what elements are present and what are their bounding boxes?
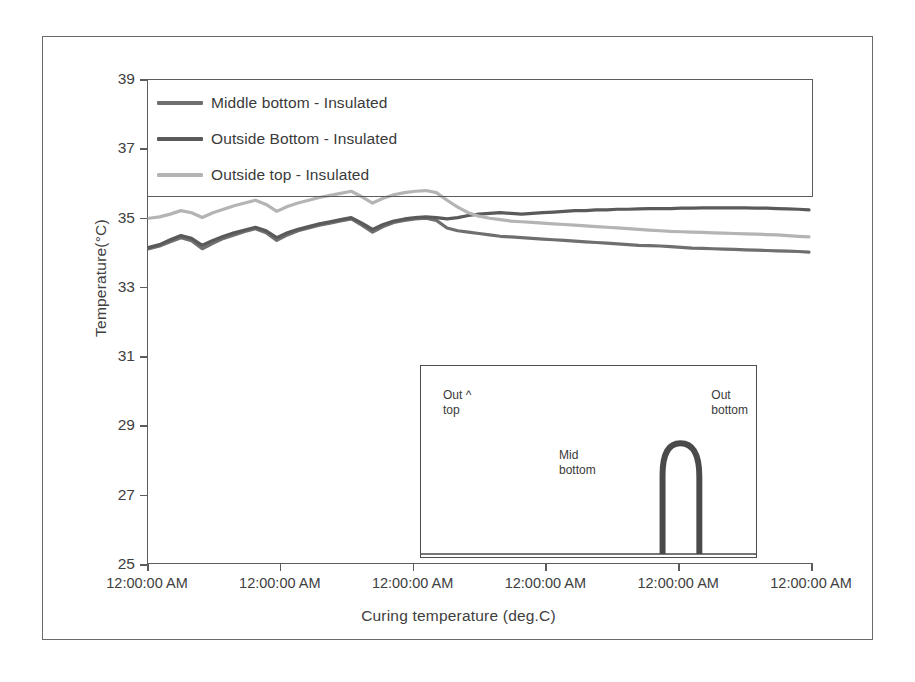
x-tick-mark (147, 564, 149, 571)
y-tick-mark (140, 356, 147, 358)
series-line (149, 218, 809, 252)
x-tick-mark (545, 564, 547, 571)
x-tick-label: 12:00:00 AM (770, 575, 851, 591)
y-tick-mark (140, 148, 147, 150)
inset-label-out-top: Out ^ top (443, 388, 471, 418)
legend-label: Outside top - Insulated (211, 166, 369, 184)
y-tick-mark (140, 79, 147, 81)
legend-label: Outside Bottom - Insulated (211, 130, 397, 148)
x-tick-label: 12:00:00 AM (505, 575, 586, 591)
legend-item[interactable]: Outside Bottom - Insulated (157, 130, 397, 148)
x-axis-title: Curing temperature (deg.C) (43, 607, 874, 625)
legend-color-swatch (157, 137, 203, 141)
x-tick-label: 12:00:00 AM (239, 575, 320, 591)
y-tick-mark (140, 218, 147, 220)
x-tick-label: 12:00:00 AM (637, 575, 718, 591)
figure-border: Temperature(°C) Curing temperature (deg.… (42, 36, 873, 640)
y-tick-label: 25 (89, 555, 135, 573)
x-tick-mark (678, 564, 680, 571)
legend-label: Middle bottom - Insulated (211, 94, 388, 112)
y-tick-mark (140, 287, 147, 289)
x-tick-mark (280, 564, 282, 571)
legend-item[interactable]: Middle bottom - Insulated (157, 94, 388, 112)
y-tick-label: 35 (89, 209, 135, 227)
y-tick-mark (140, 495, 147, 497)
x-tick-label: 12:00:00 AM (106, 575, 187, 591)
y-tick-label: 37 (89, 139, 135, 157)
x-tick-mark (413, 564, 415, 571)
y-tick-label: 29 (89, 416, 135, 434)
legend-color-swatch (157, 173, 203, 177)
y-tick-mark (140, 425, 147, 427)
legend-color-swatch (157, 101, 203, 105)
y-tick-label: 27 (89, 486, 135, 504)
series-line (149, 208, 809, 247)
inset-label-mid-bottom: Mid bottom (559, 448, 596, 478)
legend-item[interactable]: Outside top - Insulated (157, 166, 369, 184)
x-tick-label: 12:00:00 AM (372, 575, 453, 591)
y-tick-label: 39 (89, 70, 135, 88)
y-tick-label: 33 (89, 278, 135, 296)
inset-diagram: Out ^ top Out bottom Mid bottom (420, 365, 757, 558)
legend-box: Middle bottom - InsulatedOutside Bottom … (147, 79, 813, 197)
inset-label-out-bottom: Out bottom (711, 388, 748, 418)
y-tick-mark (140, 564, 147, 566)
y-tick-label: 31 (89, 347, 135, 365)
x-tick-mark (811, 564, 813, 571)
